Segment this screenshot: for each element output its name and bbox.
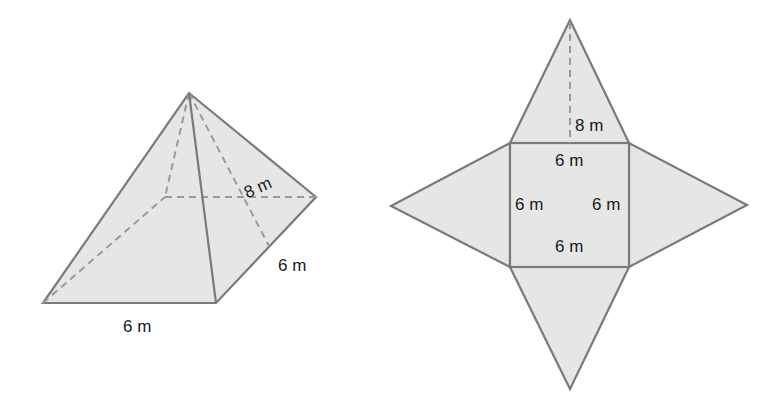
net-bottom-triangle: [510, 267, 629, 389]
net-square-bottom-label: 6 m: [555, 237, 583, 256]
net-square-left-label: 6 m: [515, 195, 543, 214]
net-left-triangle: [391, 143, 510, 267]
pyramid-front-label: 6 m: [123, 317, 151, 336]
net-square-top-label: 6 m: [555, 151, 583, 170]
net-slant-label: 8 m: [575, 116, 603, 135]
net-square-right-label: 6 m: [592, 195, 620, 214]
diagram-canvas: 8 m 6 m 6 m 8 m 6 m 6 m 6 m 6 m: [0, 0, 778, 409]
pyramid-3d: 8 m 6 m 6 m: [43, 93, 316, 336]
net-right-triangle: [629, 143, 747, 267]
pyramid-side-label: 6 m: [278, 256, 306, 275]
pyramid-net: 8 m 6 m 6 m 6 m 6 m: [391, 20, 747, 389]
